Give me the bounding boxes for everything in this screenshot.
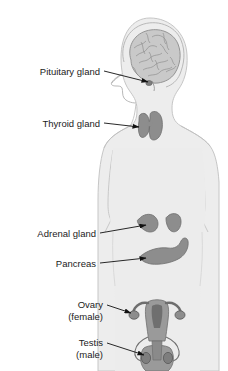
label-testis: Testis	[79, 337, 104, 348]
uterus-cavity	[152, 305, 163, 329]
ovary-right-shape	[175, 311, 185, 319]
label-ovary: Ovary	[78, 299, 104, 310]
thyroid-gland-shape	[138, 111, 162, 140]
label-ovary-qualifier: (female)	[68, 311, 103, 322]
label-thyroid-gland: Thyroid gland	[42, 118, 100, 129]
label-pancreas: Pancreas	[56, 258, 96, 269]
testis-left-shape	[141, 352, 150, 363]
penis-shape	[152, 341, 162, 360]
ovary-left-shape	[129, 311, 139, 319]
nose-line	[112, 75, 121, 83]
testis-right-shape	[163, 352, 172, 363]
labels-group: Pituitary gland Thyroid gland Adrenal gl…	[37, 66, 103, 360]
label-pituitary-gland: Pituitary gland	[40, 66, 100, 77]
endocrine-system-diagram: Pituitary gland Thyroid gland Adrenal gl…	[0, 0, 228, 371]
label-testis-qualifier: (male)	[76, 349, 103, 360]
label-adrenal-gland: Adrenal gland	[37, 228, 96, 239]
pituitary-gland-shape	[146, 80, 152, 85]
